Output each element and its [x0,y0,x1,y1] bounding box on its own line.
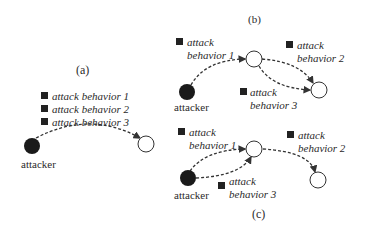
behavior-b3-line2: behavior 3 [250,99,297,111]
behavior-marker-c2 [287,131,294,138]
attacker-label-c: attacker [174,189,209,201]
behavior-a1: attack behavior 1 [52,90,129,102]
behavior-marker-a2 [41,105,48,112]
behavior-b2-line2: behavior 2 [297,52,344,64]
behavior-c3-line1: attack [229,175,256,187]
panel-b-label: (b) [248,13,261,25]
behavior-b2-line1: attack [297,39,324,51]
attacker-label-a: attacker [21,158,56,170]
behavior-a3: attack behavior 3 [52,116,129,128]
node1-b [246,51,262,67]
panel-a-label: (a) [76,64,89,76]
behavior-c1-line1: attack [189,126,216,138]
attacker-node-b [179,84,195,100]
behavior-marker-c3 [218,182,225,189]
behavior-marker-b2 [286,41,293,48]
panel-c-label: (c) [252,208,265,220]
behavior-c1-line2: behavior 1 [189,139,236,151]
behavior-marker-b3 [240,88,247,95]
node2-b [311,82,327,98]
behavior-marker-b1 [176,38,183,45]
node1-c [246,141,262,157]
behavior-c2-line2: behavior 2 [298,142,345,154]
attack-diagram: (a) attack behavior 1 attack behavior 2 … [0,0,368,234]
attacker-label-b: attacker [174,101,209,113]
target-node-a [138,136,154,152]
behavior-c3-line2: behavior 3 [229,188,276,200]
edge-b1 [191,59,245,85]
behavior-marker-c1 [178,128,185,135]
behavior-b3-line1: attack [250,86,277,98]
behavior-c2-line1: attack [298,129,325,141]
behavior-marker-a1 [41,92,48,99]
attacker-node-c [180,170,196,186]
edge-c1 [190,149,245,171]
behavior-marker-a3 [41,118,48,125]
node2-c [310,172,326,188]
behavior-a2: attack behavior 2 [52,103,129,115]
behavior-b1-line1: attack [187,36,214,48]
attacker-node-a [24,138,40,154]
behavior-b1-line2: behavior 1 [187,49,234,61]
